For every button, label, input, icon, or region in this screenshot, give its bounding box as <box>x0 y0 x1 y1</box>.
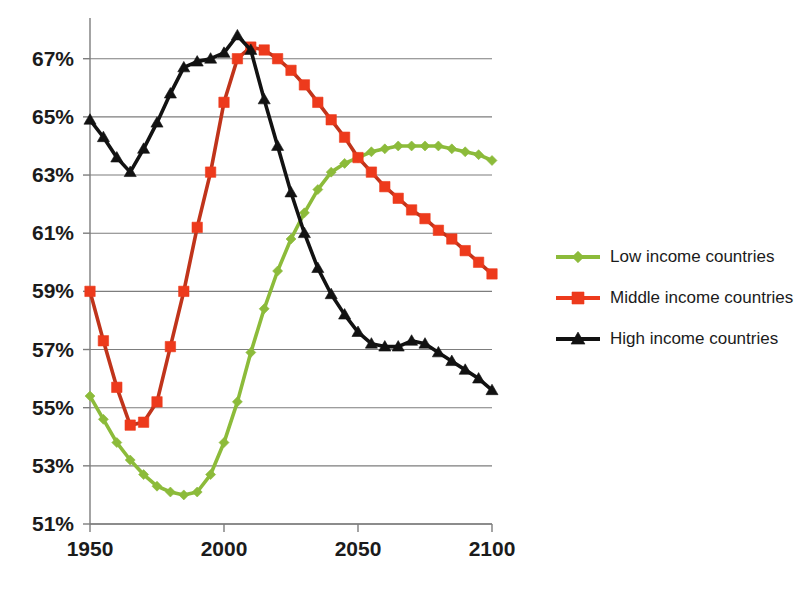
data-point-marker <box>380 144 390 154</box>
data-point-marker <box>272 54 282 64</box>
data-point-marker <box>420 141 430 151</box>
data-point-marker <box>286 65 296 75</box>
y-tick-label: 51% <box>32 512 74 535</box>
y-tick-label: 53% <box>32 454 74 477</box>
data-point-marker <box>85 286 95 296</box>
legend-marker-icon <box>572 292 584 304</box>
data-point-marker <box>487 155 497 165</box>
y-tick-label: 57% <box>32 338 74 361</box>
series-line <box>90 146 492 495</box>
legend-label: High income countries <box>610 329 778 348</box>
x-tick-label: 2000 <box>201 537 248 560</box>
data-point-marker <box>232 397 242 407</box>
data-point-marker <box>487 269 497 279</box>
chart-container: 51%53%55%57%59%61%63%65%67% 195020002050… <box>0 0 809 590</box>
data-point-marker <box>433 141 443 151</box>
legend-label: Low income countries <box>610 247 774 266</box>
x-tick-labels: 1950200020502100 <box>67 537 516 560</box>
data-point-marker <box>366 167 376 177</box>
legend-item-low-income-countries[interactable]: Low income countries <box>556 247 774 266</box>
gridlines <box>90 59 492 524</box>
data-point-marker <box>259 45 269 55</box>
data-point-marker <box>353 152 363 162</box>
data-point-marker <box>473 257 483 267</box>
data-point-marker <box>460 245 470 255</box>
y-axis <box>83 18 90 524</box>
data-point-marker <box>393 141 403 151</box>
legend-marker-icon <box>572 251 584 263</box>
data-point-marker <box>258 93 270 103</box>
data-point-marker <box>460 147 470 157</box>
data-point-marker <box>272 140 284 150</box>
data-point-marker <box>112 382 122 392</box>
data-point-marker <box>406 205 416 215</box>
data-point-marker <box>407 141 417 151</box>
data-point-marker <box>273 266 283 276</box>
data-point-marker <box>125 420 135 430</box>
data-point-marker <box>84 114 96 124</box>
data-point-marker <box>313 97 323 107</box>
data-point-marker <box>165 341 175 351</box>
x-tick-label: 2050 <box>335 537 382 560</box>
y-tick-label: 61% <box>32 221 74 244</box>
data-point-marker <box>259 304 269 314</box>
data-point-marker <box>299 80 309 90</box>
legend-item-high-income-countries[interactable]: High income countries <box>556 329 778 348</box>
data-point-marker <box>420 213 430 223</box>
y-tick-labels: 51%53%55%57%59%61%63%65%67% <box>32 47 74 535</box>
data-point-marker <box>219 97 229 107</box>
x-tick-label: 1950 <box>67 537 114 560</box>
data-point-marker <box>326 115 336 125</box>
data-point-marker <box>393 193 403 203</box>
data-point-marker <box>246 347 256 357</box>
data-point-marker <box>474 150 484 160</box>
data-point-marker <box>447 144 457 154</box>
chart-legend: Low income countriesMiddle income countr… <box>556 247 793 348</box>
series-line <box>90 35 492 390</box>
data-point-marker <box>447 234 457 244</box>
data-point-marker <box>98 336 108 346</box>
data-point-marker <box>151 117 163 127</box>
data-point-marker <box>179 286 189 296</box>
data-point-marker <box>165 487 175 497</box>
line-chart: 51%53%55%57%59%61%63%65%67% 195020002050… <box>0 0 809 590</box>
data-point-marker <box>339 132 349 142</box>
x-axis <box>90 524 492 532</box>
data-point-marker <box>380 181 390 191</box>
data-point-marker <box>232 54 242 64</box>
y-tick-label: 67% <box>32 47 74 70</box>
data-point-marker <box>366 147 376 157</box>
data-point-marker <box>205 167 215 177</box>
data-point-marker <box>231 29 243 39</box>
data-point-marker <box>138 417 148 427</box>
y-tick-label: 55% <box>32 396 74 419</box>
plot-series <box>84 29 498 500</box>
data-point-marker <box>219 438 229 448</box>
data-point-marker <box>179 490 189 500</box>
data-point-marker <box>298 227 310 237</box>
y-tick-label: 63% <box>32 163 74 186</box>
data-point-marker <box>192 222 202 232</box>
data-point-marker <box>152 397 162 407</box>
legend-item-middle-income-countries[interactable]: Middle income countries <box>556 288 793 307</box>
y-tick-label: 65% <box>32 105 74 128</box>
series-high-income-countries <box>84 29 498 394</box>
y-tick-label: 59% <box>32 279 74 302</box>
data-point-marker <box>285 186 297 196</box>
legend-label: Middle income countries <box>610 288 793 307</box>
data-point-marker <box>312 262 324 272</box>
x-tick-label: 2100 <box>469 537 516 560</box>
data-point-marker <box>433 225 443 235</box>
